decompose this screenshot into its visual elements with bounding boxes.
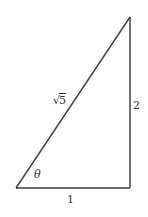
sqrt-expression: √5 (53, 95, 66, 106)
hypotenuse-line (16, 17, 130, 188)
radicand: 5 (59, 93, 66, 107)
right-triangle-diagram: √5 2 1 θ (0, 0, 148, 217)
vertical-side-label: 2 (133, 100, 140, 111)
triangle-svg (0, 0, 148, 217)
angle-theta-label: θ (34, 169, 41, 180)
hypotenuse-label: √5 (53, 95, 66, 106)
horizontal-side-label: 1 (67, 194, 74, 205)
